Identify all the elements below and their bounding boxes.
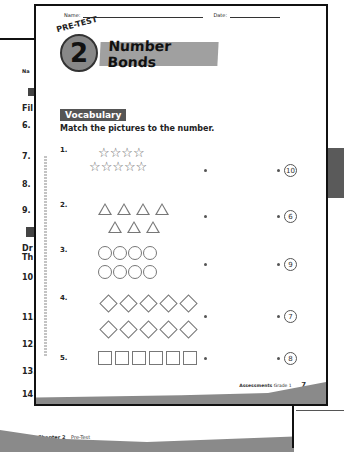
diamond-group: [98, 294, 199, 342]
match-dot[interactable]: [277, 263, 280, 266]
square-icon: [132, 351, 146, 365]
circle-icon: [113, 265, 127, 279]
match-dot[interactable]: [204, 315, 207, 318]
match-dot[interactable]: [277, 357, 280, 360]
copyright-text: [44, 156, 47, 356]
grade-label: Grade 1: [274, 383, 292, 388]
date-field[interactable]: [230, 12, 280, 18]
diamond-icon: [139, 294, 157, 312]
match-dot[interactable]: [204, 169, 207, 172]
circle-group: [98, 246, 158, 282]
question-number: 14: [22, 390, 33, 399]
name-fragment: Na: [22, 68, 30, 74]
match-dot[interactable]: [204, 215, 207, 218]
square-icon: [183, 351, 197, 365]
star-group: ☆☆☆☆ ☆☆☆☆☆: [98, 146, 147, 174]
question-number: 6.: [22, 121, 31, 130]
circle-icon: [98, 265, 112, 279]
triangle-icon: [155, 203, 169, 215]
chapter-badge: 2: [60, 34, 98, 72]
circle-icon: [128, 265, 142, 279]
question-number: 9.: [22, 206, 31, 215]
star-icon: ☆☆☆☆: [98, 146, 147, 160]
item-number: 1.: [60, 146, 68, 154]
front-page: Name: Date: PRE-TEST 2 Number Bonds Voca…: [34, 4, 328, 406]
match-dot[interactable]: [277, 315, 280, 318]
question-number: 7.: [22, 152, 31, 161]
match-dot[interactable]: [204, 263, 207, 266]
triangle-icon: [108, 221, 122, 233]
match-dot[interactable]: [204, 357, 207, 360]
diamond-icon: [99, 294, 117, 312]
question-number: 8.: [22, 180, 31, 189]
triangle-icon: [127, 221, 141, 233]
item-number: 3.: [60, 246, 68, 254]
triangle-group: [98, 203, 174, 236]
circle-icon: [143, 265, 157, 279]
circle-icon: [113, 246, 127, 260]
square-group: [98, 351, 200, 368]
directions-fragment: Dr: [22, 244, 33, 253]
circle-icon: [143, 246, 157, 260]
item-number: 5.: [60, 354, 68, 362]
section-fragment: Fil: [22, 104, 33, 113]
name-field[interactable]: [83, 12, 203, 18]
instructions: Match the pictures to the number.: [60, 124, 214, 133]
diamond-icon: [99, 320, 117, 338]
triangle-icon: [146, 221, 160, 233]
date-label: Date:: [213, 12, 227, 18]
page-title: Number Bonds: [99, 42, 218, 66]
diamond-icon: [180, 294, 198, 312]
triangle-icon: [117, 203, 131, 215]
match-dot[interactable]: [277, 169, 280, 172]
diamond-icon: [119, 320, 137, 338]
answer-number: 6: [284, 210, 297, 223]
square-icon: [98, 351, 112, 365]
item-number: 2.: [60, 201, 68, 209]
diamond-icon: [180, 320, 198, 338]
triangle-icon: [98, 203, 112, 215]
question-number: 10: [22, 273, 33, 282]
directions-fragment: Th: [22, 253, 33, 262]
diamond-icon: [159, 294, 177, 312]
square-icon: [166, 351, 180, 365]
diamond-icon: [119, 294, 137, 312]
star-icon: ☆☆☆☆☆: [89, 160, 147, 174]
diamond-icon: [159, 320, 177, 338]
section-label: Pre-Test: [71, 434, 90, 440]
square-icon: [149, 351, 163, 365]
triangle-icon: [136, 203, 150, 215]
section-header: Vocabulary: [60, 109, 126, 121]
square-icon: [115, 351, 129, 365]
answer-number: 8: [284, 352, 297, 365]
answer-number: 9: [284, 258, 297, 271]
answer-number: 10: [284, 164, 297, 177]
divider: [296, 410, 344, 411]
circle-icon: [128, 246, 142, 260]
header-fields: Name: Date:: [64, 12, 306, 18]
assessments-label: Assessments: [239, 383, 272, 388]
circle-icon: [98, 246, 112, 260]
answer-number: 7: [284, 310, 297, 323]
name-label: Name:: [64, 12, 80, 18]
match-dot[interactable]: [277, 215, 280, 218]
diamond-icon: [139, 320, 157, 338]
item-number: 4.: [60, 294, 68, 302]
